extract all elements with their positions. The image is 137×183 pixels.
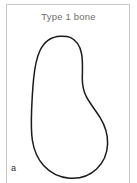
bone-outline-path bbox=[31, 36, 107, 178]
panel-letter-label: a bbox=[11, 163, 16, 173]
panel-title: Type 1 bone bbox=[0, 11, 137, 22]
figure-panel-a: Type 1 bone a bbox=[0, 0, 137, 183]
bone-diagram bbox=[0, 0, 137, 183]
